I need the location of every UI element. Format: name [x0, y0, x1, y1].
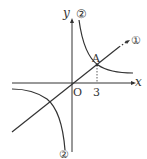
hyperbola-top-label: ② [76, 7, 87, 21]
line-1-graph [12, 40, 130, 132]
origin-label: O [73, 86, 82, 99]
line-1-label: ① [131, 34, 141, 47]
hyperbola-bottom-label: ② [59, 148, 69, 159]
hyperbola-2-lower-branch [12, 89, 65, 150]
graph-figure: y ② ① A x O 3 ② [0, 0, 147, 159]
x-tick-3-label: 3 [93, 86, 100, 99]
hyperbola-2-upper-branch [79, 20, 133, 73]
x-axis-label: x [135, 75, 142, 89]
y-axis-label: y [62, 6, 70, 20]
point-a-label: A [91, 52, 101, 65]
